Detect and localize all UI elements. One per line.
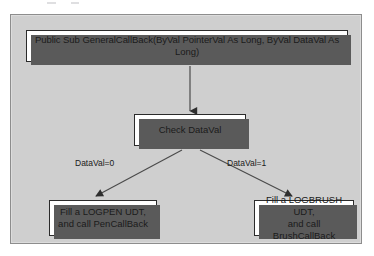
flow-node-check-dataval[interactable]: Check DataVal	[134, 114, 246, 146]
scan-artifact	[47, 2, 56, 4]
flow-node-logpen[interactable]: Fill a LOGPEN UDT, and call PenCallBack	[49, 200, 157, 236]
figure-page: Public Sub GeneralCallBack(ByVal Pointer…	[0, 0, 374, 256]
connector-decision-to-pen	[96, 150, 182, 196]
figure-frame: Public Sub GeneralCallBack(ByVal Pointer…	[10, 14, 362, 244]
flow-node-entry[interactable]: Public Sub GeneralCallBack(ByVal Pointer…	[26, 30, 348, 62]
flow-node-logpen-label: Fill a LOGPEN UDT, and call PenCallBack	[53, 206, 153, 230]
edge-label-dataval-zero: DataVal=0	[75, 158, 114, 168]
flow-node-check-dataval-label: Check DataVal	[154, 124, 227, 136]
flow-node-logbrush[interactable]: Fill a LOGBRUSH UDT, and call BrushCallB…	[254, 200, 354, 236]
connector-decision-to-brush	[200, 150, 292, 196]
flow-node-logbrush-label: Fill a LOGBRUSH UDT, and call BrushCallB…	[255, 194, 353, 243]
edge-label-dataval-one: DataVal=1	[227, 158, 266, 168]
scan-artifact	[71, 2, 79, 4]
flow-node-entry-label: Public Sub GeneralCallBack(ByVal Pointer…	[27, 34, 347, 58]
